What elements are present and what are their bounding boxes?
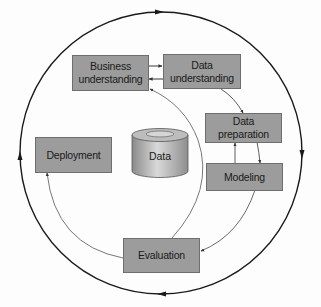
phase-label-line2: preparation <box>218 128 269 140</box>
phase-label-line1: Business <box>90 60 131 72</box>
phase-data-understanding: Dataunderstanding <box>163 54 241 89</box>
phase-data-preparation: Datapreparation <box>205 113 282 143</box>
phase-label-line1: Data <box>191 59 212 71</box>
phase-label-line2: understanding <box>79 73 143 85</box>
edge-evaluation-to-deployment <box>47 173 123 258</box>
phase-evaluation: Evaluation <box>123 238 200 273</box>
arrow-left-icon <box>157 292 166 297</box>
edge-data-understanding-to-preparation <box>221 89 243 113</box>
data-store-label: Data <box>132 150 188 162</box>
phase-label-line1: Data <box>233 115 254 127</box>
phase-label: Modeling <box>224 171 265 184</box>
arrow-down-icon <box>300 150 305 159</box>
edge-preparation-to-modeling <box>257 142 260 163</box>
edge-modeling-to-evaluation <box>201 190 255 251</box>
arrow-up-icon <box>18 151 23 160</box>
arrow-right-icon <box>155 10 164 15</box>
phase-business-understanding: Businessunderstanding <box>72 55 149 91</box>
phase-label-line2: understanding <box>170 72 234 84</box>
crisp-dm-diagram: Businessunderstanding Dataunderstanding … <box>0 0 321 307</box>
phase-label: Deployment <box>46 149 100 162</box>
phase-label: Businessunderstanding <box>79 60 143 86</box>
phase-label: Evaluation <box>138 249 185 262</box>
phase-label: Dataunderstanding <box>170 59 234 85</box>
phase-deployment: Deployment <box>35 137 112 173</box>
phase-modeling: Modeling <box>206 163 283 191</box>
phase-label: Datapreparation <box>218 115 269 141</box>
